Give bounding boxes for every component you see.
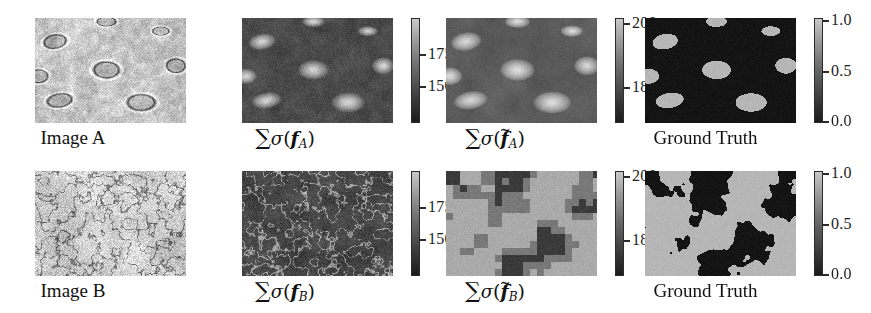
colorbar-tick bbox=[624, 176, 630, 178]
colorbar-ground-truth-a: 1.0 0.5 0.0 bbox=[814, 18, 823, 123]
colorbar-tick bbox=[624, 87, 630, 89]
figure-row-a: Image A 175 150 ∑σ(fA) bbox=[0, 0, 871, 156]
figure-row-b: Image B 175 150 ∑σ(fB) bbox=[0, 153, 871, 309]
panel-caption-image-a: Image A bbox=[0, 126, 184, 150]
colorbar-tick bbox=[823, 274, 829, 276]
colorbar-gradient bbox=[411, 18, 420, 123]
image-panel-sigma-f-tilde-a bbox=[446, 18, 597, 123]
panel-cell-ground-truth-a: 1.0 0.5 0.0 Ground Truth bbox=[636, 0, 871, 156]
panel-cell-ground-truth-b: 1.0 0.5 0.0 Ground Truth bbox=[636, 153, 871, 309]
colorbar-tick bbox=[823, 20, 829, 22]
image-panel-sigma-f-tilde-b bbox=[446, 171, 597, 276]
colorbar-ground-truth-b: 1.0 0.5 0.0 bbox=[814, 171, 823, 276]
colorbar-tick-label: 1.0 bbox=[831, 12, 852, 28]
panel-caption-ground-truth-b: Ground Truth bbox=[588, 279, 823, 303]
colorbar-sigma-f-a: 175 150 bbox=[411, 18, 420, 123]
panel-caption-sigma-f-tilde-a: ∑σ(f~A) bbox=[384, 126, 606, 156]
panel-caption-sigma-f-b: ∑σ(fB) bbox=[174, 279, 396, 309]
image-panel-sigma-f-b bbox=[242, 171, 393, 276]
colorbar-tick bbox=[420, 207, 426, 209]
math-label: ∑σ(f~B) bbox=[465, 280, 525, 302]
colorbar-tick bbox=[420, 239, 426, 241]
math-label: ∑σ(fA) bbox=[255, 127, 315, 149]
colorbar-tick-label: 0.0 bbox=[831, 266, 852, 282]
colorbar-gradient bbox=[411, 171, 420, 276]
panel-caption-image-b: Image B bbox=[0, 279, 184, 303]
image-panel-image-b bbox=[35, 171, 186, 276]
panel-caption-sigma-f-tilde-b: ∑σ(f~B) bbox=[384, 279, 606, 309]
colorbar-sigma-f-tilde-b: 200 180 bbox=[615, 171, 624, 276]
image-panel-image-a bbox=[35, 18, 186, 123]
colorbar-tick-label: 0.5 bbox=[831, 216, 852, 232]
colorbar-tick bbox=[823, 121, 829, 123]
colorbar-tick bbox=[420, 54, 426, 56]
math-label: ∑σ(f~A) bbox=[465, 127, 525, 149]
image-panel-ground-truth-b bbox=[645, 171, 796, 276]
image-panel-sigma-f-a bbox=[242, 18, 393, 123]
colorbar-gradient bbox=[615, 171, 624, 276]
colorbar-tick bbox=[624, 240, 630, 242]
colorbar-gradient bbox=[814, 18, 823, 123]
colorbar-tick-label: 0.5 bbox=[831, 63, 852, 79]
colorbar-tick bbox=[823, 71, 829, 73]
figure-panel-grid: Image A 175 150 ∑σ(fA) bbox=[0, 0, 871, 313]
colorbar-tick bbox=[823, 173, 829, 175]
colorbar-sigma-f-b: 175 150 bbox=[411, 171, 420, 276]
colorbar-tick bbox=[624, 23, 630, 25]
colorbar-tick bbox=[420, 86, 426, 88]
colorbar-tick-label: 1.0 bbox=[831, 165, 852, 181]
math-label: ∑σ(fB) bbox=[255, 280, 315, 302]
colorbar-sigma-f-tilde-a: 200 180 bbox=[615, 18, 624, 123]
colorbar-tick-label: 0.0 bbox=[831, 113, 852, 129]
colorbar-gradient bbox=[615, 18, 624, 123]
panel-caption-ground-truth-a: Ground Truth bbox=[588, 126, 823, 150]
image-panel-ground-truth-a bbox=[645, 18, 796, 123]
colorbar-gradient bbox=[814, 171, 823, 276]
colorbar-tick bbox=[823, 224, 829, 226]
panel-caption-sigma-f-a: ∑σ(fA) bbox=[174, 126, 396, 156]
